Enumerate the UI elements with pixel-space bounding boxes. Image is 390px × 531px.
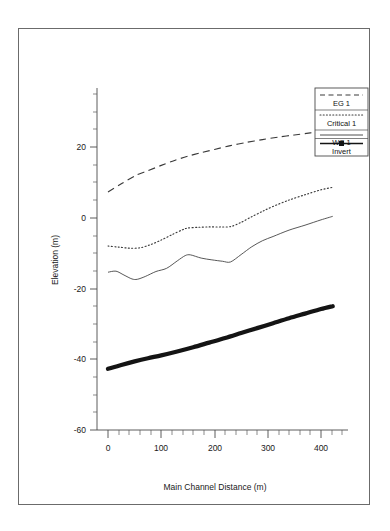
y-ticklabel: 0	[81, 213, 86, 223]
legend-label-critical-1: Critical 1	[327, 119, 356, 128]
y-ticklabel: -20	[74, 284, 87, 294]
y-tick-group: 20 0 -20 -40 -60	[74, 142, 97, 435]
y-ticklabel: 20	[77, 142, 87, 152]
y-ticklabel: -40	[74, 354, 87, 364]
legend-label-invert: Invert	[332, 147, 352, 156]
x-minor-tick-group	[119, 430, 342, 435]
series-line-critical-1	[108, 187, 333, 248]
y-axis-title: Elevation (m)	[50, 235, 60, 285]
y-minor-tick-group	[93, 94, 97, 412]
x-ticklabel: 400	[314, 443, 328, 453]
series-group	[108, 130, 333, 369]
x-axis-title: Main Channel Distance (m)	[164, 482, 267, 492]
series-line-eg-1	[108, 130, 333, 192]
figure-container: 20 0 -20 -40 -60	[18, 28, 370, 505]
chart-page: 20 0 -20 -40 -60	[0, 0, 390, 531]
legend[interactable]: EG 1 Critical 1 WS 1 Invert	[315, 88, 368, 156]
x-tick-group: 0 100 200 300 400	[106, 430, 329, 453]
legend-label-eg-1: EG 1	[333, 99, 350, 108]
legend-marker-invert-square	[339, 141, 344, 146]
x-ticklabel: 300	[261, 443, 275, 453]
x-ticklabel: 100	[154, 443, 168, 453]
x-ticklabel: 200	[208, 443, 222, 453]
elevation-profile-chart: 20 0 -20 -40 -60	[18, 28, 370, 505]
series-line-invert	[108, 306, 333, 369]
x-ticklabel: 0	[106, 443, 111, 453]
y-ticklabel: -60	[74, 425, 87, 435]
